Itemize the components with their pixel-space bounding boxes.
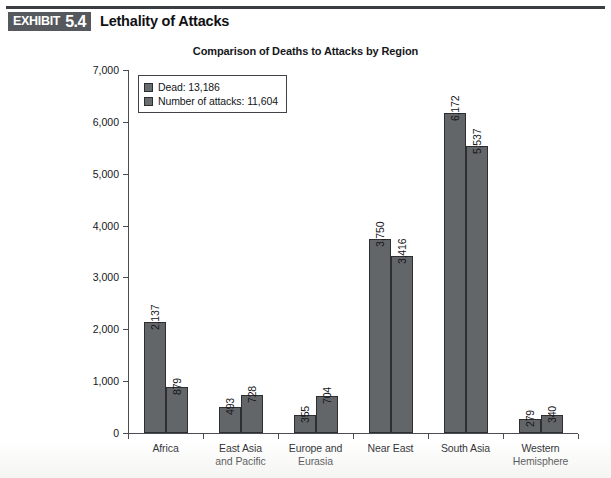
bar [144,322,166,433]
bar-value-label: 2,137 [149,305,161,330]
y-axis-tick [123,122,128,123]
x-axis-category-line: Near East [353,442,428,455]
header-divider [6,6,605,9]
x-axis-category-line: and Pacific [203,455,278,468]
y-axis-tick [123,226,128,227]
y-axis-tick-label: 5,000 [93,168,119,180]
x-axis-category-label: Near East [353,442,428,455]
bar-value-label: 879 [171,378,183,395]
y-axis-tick [123,174,128,175]
bar-value-label: 3,416 [396,239,408,264]
bar-value-label: 493 [224,399,236,416]
y-axis-tick [123,277,128,278]
chart-legend: Dead: 13,186 Number of attacks: 11,604 [138,75,287,113]
exhibit-header: EXHIBIT 5.4 Lethality of Attacks [8,12,229,31]
x-axis-tick [353,434,354,439]
x-axis-category-line: Africa [128,442,203,455]
bar-value-label: 340 [546,406,558,423]
x-axis-category-line: Western [503,442,578,455]
x-axis-tick [128,434,129,439]
y-axis-tick [123,70,128,71]
bar-value-label: 279 [524,410,536,427]
bar [391,256,413,433]
y-axis-tick-label: 1,000 [93,375,119,387]
legend-item-dead: Dead: 13,186 [144,80,278,94]
y-axis-tick-label: 0 [113,427,119,439]
y-axis-tick [123,329,128,330]
x-axis-category-label: East Asiaand Pacific [203,442,278,467]
x-axis-category-line: East Asia [203,442,278,455]
chart-plot-area: 01,0002,0003,0004,0005,0006,0007,000 2,1… [128,70,578,434]
y-axis-tick-label: 4,000 [93,220,119,232]
legend-swatch-icon [144,97,153,106]
exhibit-tag: EXHIBIT 5.4 [8,12,91,31]
bar-value-label: 704 [321,388,333,405]
x-axis-category-line: South Asia [428,442,503,455]
x-axis-category-line: Eurasia [278,455,353,468]
x-axis-category-label: Africa [128,442,203,455]
x-axis-tick [428,434,429,439]
x-axis-category-label: South Asia [428,442,503,455]
x-axis-category-line: Hemisphere [503,455,578,468]
x-axis-tick [203,434,204,439]
y-axis-tick-label: 7,000 [93,64,119,76]
bar-value-label: 3,750 [374,221,386,246]
x-axis-tick [578,434,579,439]
bar-value-label: 728 [246,386,258,403]
exhibit-page: EXHIBIT 5.4 Lethality of Attacks Compari… [0,0,611,478]
x-axis-tick [278,434,279,439]
chart-title: Comparison of Deaths to Attacks by Regio… [0,45,611,57]
legend-label: Number of attacks: 11,604 [158,95,278,107]
x-axis-tick [503,434,504,439]
x-axis-category-label: WesternHemisphere [503,442,578,467]
bar-value-label: 5,537 [471,129,483,154]
page-title: Lethality of Attacks [100,12,229,31]
y-axis-tick-label: 6,000 [93,116,119,128]
legend-swatch-icon [144,83,153,92]
exhibit-label: EXHIBIT [13,12,65,31]
bar-value-label: 6,172 [449,96,461,121]
legend-label: Dead: 13,186 [158,81,220,93]
y-axis-tick-label: 3,000 [93,271,119,283]
bar [444,113,466,433]
legend-item-attacks: Number of attacks: 11,604 [144,94,278,108]
x-axis-category-label: Europe andEurasia [278,442,353,467]
bar [466,146,488,433]
bar [369,239,391,433]
bar-value-label: 355 [299,406,311,423]
y-axis-tick-label: 2,000 [93,323,119,335]
y-axis-line [128,70,129,434]
x-axis-category-line: Europe and [278,442,353,455]
exhibit-number: 5.4 [65,12,91,31]
y-axis-tick [123,381,128,382]
